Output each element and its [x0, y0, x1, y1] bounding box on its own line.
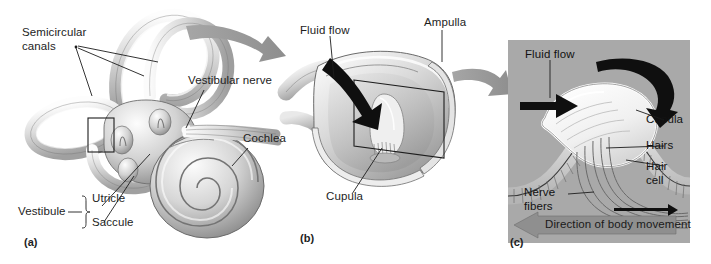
- transition-arrow-a-to-b: [186, 25, 286, 62]
- label-nerve-fibers-line2: fibers: [524, 200, 553, 212]
- label-direction-of-body-movement: Direction of body movement: [545, 218, 691, 232]
- panel-tag-b: (b): [300, 232, 314, 244]
- transition-arrow-b-to-c: [452, 69, 512, 96]
- label-nerve-fibers-line1: Nerve: [524, 186, 555, 198]
- label-vestibular-nerve: Vestibular nerve: [188, 74, 272, 88]
- panel-b-artwork: [286, 30, 455, 194]
- label-fluid-flow-c: Fluid flow: [525, 48, 575, 62]
- label-semicircular-canals-line2: canals: [22, 40, 56, 52]
- label-semicircular-canals-line1: Semicircular: [22, 26, 86, 38]
- panel-tag-c: (c): [510, 236, 523, 248]
- label-nerve-fibers: Nervefibers: [524, 186, 555, 213]
- label-ampulla: Ampulla: [424, 16, 466, 30]
- label-hairs: Hairs: [646, 139, 673, 153]
- label-hair-cell-line1: Hair: [646, 160, 668, 172]
- label-cupula-c: Cupula: [646, 113, 683, 127]
- label-hair-cell: Haircell: [646, 160, 668, 187]
- label-hair-cell-line2: cell: [646, 174, 664, 186]
- label-semicircular-canals: Semicircularcanals: [22, 26, 86, 53]
- label-fluid-flow-b: Fluid flow: [300, 24, 350, 38]
- panel-tag-a: (a): [24, 236, 37, 248]
- label-cochlea: Cochlea: [243, 132, 286, 146]
- label-cupula-b: Cupula: [326, 190, 363, 204]
- vestibular-apparatus-figure: Semicircularcanals Vestibular nerve Coch…: [0, 0, 711, 264]
- label-saccule: Saccule: [92, 216, 134, 230]
- label-vestibule: Vestibule: [18, 205, 66, 219]
- label-utricle: Utricle: [92, 192, 125, 206]
